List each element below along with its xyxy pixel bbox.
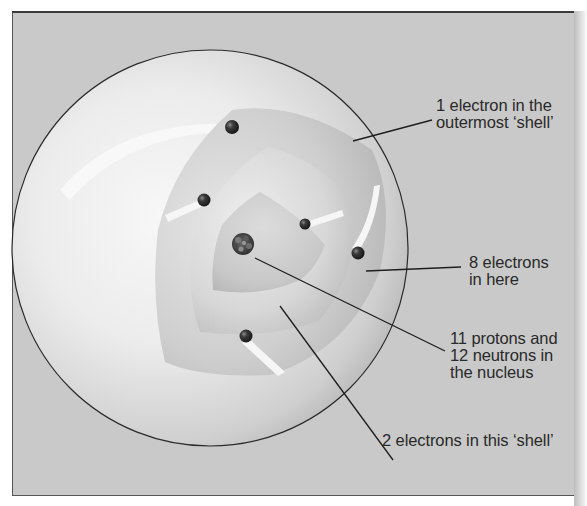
electron-middle-2 [352, 247, 365, 260]
label-nucleus: 11 protons and 12 neutrons in the nucleu… [450, 330, 557, 381]
electron-middle-1 [198, 194, 211, 207]
nucleus [232, 233, 254, 255]
electron-inner [300, 219, 311, 230]
label-inner-shell: 2 electrons in this ‘shell’ [382, 432, 554, 449]
label-middle-shell: 8 electrons in here [469, 254, 549, 288]
electron-outer [225, 120, 239, 134]
label-outer-shell: 1 electron in the outermost ‘shell’ [436, 97, 554, 131]
electron-middle-3 [240, 330, 253, 343]
